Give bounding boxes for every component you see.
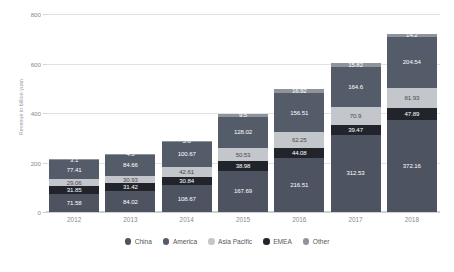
bar-segment-value: 372.16 (403, 163, 421, 169)
bar-segment[interactable]: 62.25 (274, 132, 324, 147)
bar-segment-value: 29.06 (67, 180, 82, 186)
bar-group[interactable]: 108.6730.8442.61100.675.6 (162, 141, 212, 212)
bar-segment-value: 31.85 (67, 187, 82, 193)
bar-segment[interactable]: 47.89 (387, 108, 437, 120)
bar-segment-value: 164.6 (348, 84, 363, 90)
legend-item[interactable]: America (163, 238, 197, 245)
legend-swatch-icon (125, 238, 132, 245)
bar-segment[interactable]: 84.02 (105, 191, 155, 212)
bar-segment[interactable]: 216.51 (274, 158, 324, 212)
legend-item[interactable]: EMEA (263, 238, 292, 245)
bar-segment[interactable]: 3.1 (49, 159, 99, 160)
x-axis-tick-label: 2018 (405, 216, 419, 223)
bar-segment[interactable]: 15.82 (331, 63, 381, 67)
bar-segment[interactable]: 100.67 (162, 142, 212, 167)
y-axis-tick-label: 600 (31, 60, 41, 67)
bar-segment[interactable]: 44.08 (274, 148, 324, 159)
bar-segment-value: 156.51 (290, 110, 308, 116)
bar-segment-value: 30.93 (123, 177, 138, 183)
bar-segment[interactable]: 31.42 (105, 183, 155, 191)
bars-layer: 71.5831.8529.0677.413.184.0231.4230.9384… (46, 14, 440, 212)
bar-segment[interactable]: 77.41 (49, 160, 99, 179)
bar-segment[interactable]: 29.06 (49, 179, 99, 186)
bar-segment-value: 39.47 (348, 127, 363, 133)
y-axis-tick-label: 0 (38, 209, 41, 216)
y-axis-title: Revenue in billion yuan (18, 42, 24, 172)
x-axis-tick-label: 2015 (236, 216, 250, 223)
bar-segment[interactable]: 39.47 (331, 125, 381, 135)
bar-segment-value: 128.02 (234, 129, 252, 135)
bar-segment-value: 108.67 (178, 196, 196, 202)
bar-segment-value: 50.53 (236, 152, 251, 158)
bar-segment[interactable]: 156.51 (274, 93, 324, 132)
bar-segment-value: 216.51 (290, 182, 308, 188)
x-axis-tick-label: 2013 (123, 216, 137, 223)
bar-group[interactable]: 84.0231.4230.9384.664.5 (105, 154, 155, 212)
bar-segment[interactable]: 42.61 (162, 167, 212, 178)
bar-segment-value: 84.66 (123, 162, 138, 168)
y-axis-tick-mark (43, 212, 46, 213)
legend-label: America (173, 238, 197, 245)
legend-label: Asia Pacific (218, 238, 252, 245)
x-axis-tick-label: 2016 (292, 216, 306, 223)
bar-segment[interactable]: 14.2 (387, 34, 437, 38)
stacked-bar-chart: Revenue in billion yuan 0200400600800 71… (0, 0, 454, 272)
x-axis-tick-label: 2012 (67, 216, 81, 223)
legend-swatch-icon (163, 238, 170, 245)
bar-segment[interactable]: 71.58 (49, 194, 99, 212)
bar-segment[interactable]: 16.92 (274, 89, 324, 93)
bar-segment[interactable]: 38.98 (218, 161, 268, 171)
bar-group[interactable]: 372.1647.8981.93204.5414.2 (387, 34, 437, 212)
bar-segment-value: 4.5 (126, 151, 134, 157)
bar-segment[interactable]: 5.6 (162, 141, 212, 142)
bar-segment-value: 47.89 (404, 111, 419, 117)
gridline (46, 212, 440, 213)
bar-segment-value: 14.2 (406, 32, 417, 38)
bar-segment[interactable]: 70.9 (331, 107, 381, 125)
bar-segment[interactable]: 204.54 (387, 37, 437, 88)
bar-group[interactable]: 216.5144.0862.25156.5116.92 (274, 89, 324, 212)
legend-item[interactable]: Asia Pacific (208, 238, 252, 245)
bar-segment-value: 100.67 (178, 151, 196, 157)
bar-group[interactable]: 167.6938.9850.53128.029.5 (218, 114, 268, 212)
bar-segment-value: 5.6 (183, 138, 191, 144)
bar-segment[interactable]: 81.93 (387, 88, 437, 108)
bar-segment-value: 38.98 (236, 163, 251, 169)
legend-item[interactable]: Other (303, 238, 330, 245)
legend-swatch-icon (303, 238, 310, 245)
legend-item[interactable]: China (125, 238, 152, 245)
bar-segment-value: 167.69 (234, 188, 252, 194)
bar-segment-value: 16.92 (292, 88, 307, 94)
bar-group[interactable]: 312.5339.4770.9164.615.82 (331, 63, 381, 212)
bar-segment-value: 62.25 (292, 137, 307, 143)
bar-segment[interactable]: 108.67 (162, 185, 212, 212)
legend-label: Other (313, 238, 330, 245)
bar-segment-value: 30.84 (179, 178, 194, 184)
bar-segment[interactable]: 372.16 (387, 120, 437, 212)
bar-segment[interactable]: 50.53 (218, 148, 268, 161)
bar-segment[interactable]: 30.93 (105, 176, 155, 184)
x-axis-tick-label: 2017 (348, 216, 362, 223)
y-axis-tick-label: 200 (31, 159, 41, 166)
bar-segment-value: 84.02 (123, 199, 138, 205)
bar-segment[interactable]: 9.5 (218, 114, 268, 116)
bar-segment-value: 15.82 (348, 62, 363, 68)
bar-segment[interactable]: 312.53 (331, 135, 381, 212)
bar-segment-value: 81.93 (404, 95, 419, 101)
bar-segment[interactable]: 128.02 (218, 117, 268, 149)
bar-segment[interactable]: 164.6 (331, 67, 381, 108)
y-axis-tick-label: 800 (31, 11, 41, 18)
bar-segment[interactable]: 167.69 (218, 171, 268, 213)
y-axis-tick-label: 400 (31, 110, 41, 117)
chart-legend: ChinaAmericaAsia PacificEMEAOther (0, 238, 454, 245)
bar-segment-value: 312.53 (347, 170, 365, 176)
bar-segment-value: 204.54 (403, 59, 421, 65)
bar-segment-value: 31.42 (123, 184, 138, 190)
bar-segment[interactable]: 4.5 (105, 154, 155, 155)
bar-segment[interactable]: 31.85 (49, 186, 99, 194)
legend-swatch-icon (208, 238, 215, 245)
bar-segment[interactable]: 30.84 (162, 177, 212, 185)
bar-segment-value: 71.58 (67, 200, 82, 206)
bar-segment[interactable]: 84.66 (105, 155, 155, 176)
bar-group[interactable]: 71.5831.8529.0677.413.1 (49, 159, 99, 212)
